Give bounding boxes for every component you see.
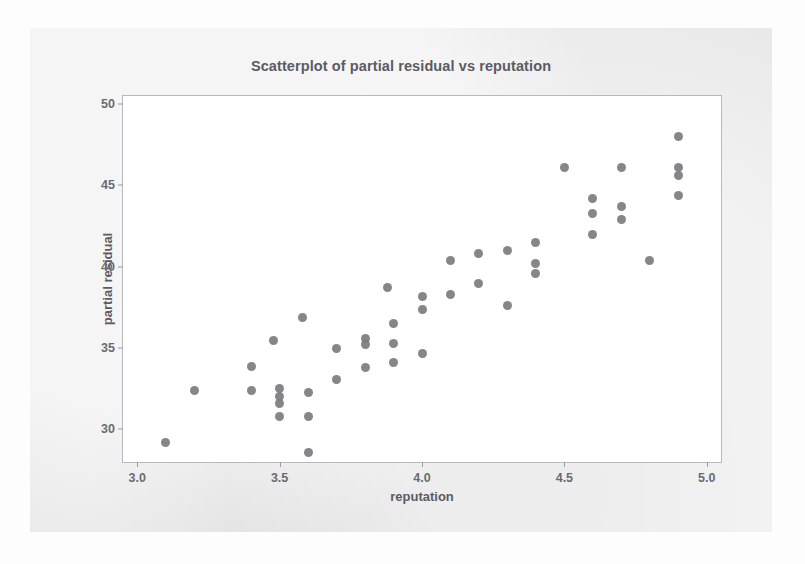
data-point <box>560 163 569 172</box>
y-tick-label: 45 <box>101 178 115 192</box>
data-point <box>304 412 313 421</box>
data-point <box>361 340 370 349</box>
data-point <box>418 349 427 358</box>
screenshot-root: Scatterplot of partial residual vs reput… <box>0 0 805 564</box>
x-tick-label: 5.0 <box>698 471 715 485</box>
data-point <box>531 238 540 247</box>
y-tick-label: 30 <box>101 422 115 436</box>
data-point <box>446 256 455 265</box>
data-point <box>389 339 398 348</box>
x-tick-label: 4.0 <box>413 471 430 485</box>
x-tick-mark <box>707 462 708 467</box>
data-point <box>674 171 683 180</box>
data-point <box>617 163 626 172</box>
data-point <box>617 215 626 224</box>
y-tick-mark <box>118 185 123 186</box>
data-point <box>418 305 427 314</box>
data-point <box>304 448 313 457</box>
data-point <box>383 283 392 292</box>
chart-title: Scatterplot of partial residual vs reput… <box>30 58 772 74</box>
data-point <box>588 209 597 218</box>
data-point <box>247 386 256 395</box>
x-tick-mark <box>422 462 423 467</box>
data-point <box>446 290 455 299</box>
data-point <box>418 292 427 301</box>
data-point <box>332 375 341 384</box>
x-tick-mark <box>280 462 281 467</box>
x-tick-label: 3.5 <box>271 471 288 485</box>
data-point <box>674 132 683 141</box>
data-point <box>503 301 512 310</box>
data-point <box>161 438 170 447</box>
y-tick-label: 40 <box>101 260 115 274</box>
data-point <box>298 313 307 322</box>
data-point <box>361 363 370 372</box>
data-point <box>588 230 597 239</box>
x-tick-label: 3.0 <box>129 471 146 485</box>
data-point <box>474 279 483 288</box>
data-point <box>389 319 398 328</box>
data-point <box>190 386 199 395</box>
figure-panel: Scatterplot of partial residual vs reput… <box>30 28 772 532</box>
y-axis-title: partial residual <box>100 233 115 325</box>
data-point <box>503 246 512 255</box>
data-point <box>588 194 597 203</box>
data-point <box>389 358 398 367</box>
data-point <box>304 388 313 397</box>
y-tick-label: 35 <box>101 341 115 355</box>
data-point <box>531 259 540 268</box>
y-tick-label: 50 <box>101 97 115 111</box>
y-tick-mark <box>118 104 123 105</box>
y-tick-mark <box>118 429 123 430</box>
data-point <box>617 202 626 211</box>
plot-area: partial residual reputation 30354045503.… <box>122 95 722 463</box>
y-tick-mark <box>118 348 123 349</box>
data-point <box>275 412 284 421</box>
scatter-points-layer <box>123 96 721 462</box>
x-tick-label: 4.5 <box>556 471 573 485</box>
data-point <box>332 344 341 353</box>
y-tick-mark <box>118 266 123 267</box>
data-point <box>531 269 540 278</box>
data-point <box>674 191 683 200</box>
data-point <box>269 336 278 345</box>
data-point <box>247 362 256 371</box>
x-tick-mark <box>564 462 565 467</box>
x-axis-title: reputation <box>390 489 454 504</box>
data-point <box>275 399 284 408</box>
x-tick-mark <box>137 462 138 467</box>
data-point <box>645 256 654 265</box>
data-point <box>474 249 483 258</box>
